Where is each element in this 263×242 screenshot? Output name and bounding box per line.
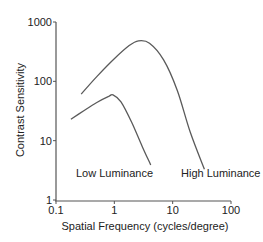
x-tick-label: 0.1 <box>48 204 63 216</box>
y-tick-label: 1000 <box>28 16 52 28</box>
y-tick-label: 10 <box>40 135 52 147</box>
x-tick-label: 100 <box>222 204 240 216</box>
high-luminance-curve <box>81 41 204 170</box>
x-tick-label: 10 <box>167 204 179 216</box>
contrast-sensitivity-chart: 11010010000.1110100 Low Luminance High L… <box>0 0 263 242</box>
low-luminance-label: Low Luminance <box>76 167 153 179</box>
plot-area: 11010010000.1110100 Low Luminance High L… <box>0 0 263 242</box>
x-tick-label: 1 <box>111 204 117 216</box>
y-axis-title: Contrast Sensitivity <box>14 62 26 157</box>
curves <box>71 41 205 170</box>
y-tick-label: 100 <box>34 75 52 87</box>
axes: 11010010000.1110100 <box>28 16 241 216</box>
low-luminance-curve <box>71 95 151 165</box>
high-luminance-label: High Luminance <box>181 167 261 179</box>
x-axis-title: Spatial Frequency (cycles/degree) <box>62 220 229 232</box>
